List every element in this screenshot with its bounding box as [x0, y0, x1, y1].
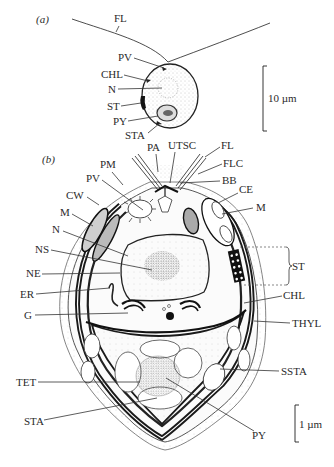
label-b-ne: NE — [26, 267, 41, 279]
label-b-fl: FL — [221, 139, 234, 151]
leader-b-fl — [205, 147, 220, 157]
label-b-sta: STA — [24, 415, 44, 427]
label-b-bb: BB — [222, 174, 237, 186]
scale-bar-1um: 1 µm — [295, 405, 323, 442]
label-a-pv: PV — [118, 51, 132, 63]
label-b-m-right: M — [256, 201, 266, 213]
scale-bar-10um: 10 µm — [263, 66, 297, 131]
starch-grain-top — [140, 340, 180, 358]
label-b-er: ER — [20, 288, 35, 300]
stroma-starch-5 — [238, 349, 250, 371]
pyrenoid — [136, 356, 180, 396]
label-a-st: ST — [107, 100, 120, 112]
label-b-m-left: M — [60, 206, 70, 218]
nucleolus — [144, 251, 180, 281]
leader-a-sta — [148, 123, 160, 133]
label-b-ce: CE — [239, 183, 253, 195]
label-b-ssta: SSTA — [281, 365, 307, 377]
cell-diagram-figure: (a) FL PV CHL N ST PY STA — [0, 0, 334, 467]
leader-a-pv — [134, 58, 164, 68]
label-a-fl: FL — [114, 12, 127, 24]
leader-b-flc — [198, 164, 222, 174]
panel-a: (a) FL PV CHL N ST PY STA — [36, 12, 297, 141]
label-b-ns: NS — [35, 243, 49, 255]
label-b-pm: PM — [100, 158, 116, 170]
leader-a-fl — [116, 26, 119, 32]
panel-a-tag: (a) — [36, 13, 49, 26]
flagellum-right-line — [168, 23, 270, 62]
stroma-starch-4 — [227, 326, 241, 350]
label-a-chl: CHL — [101, 68, 123, 80]
leader-b-cw — [87, 197, 99, 205]
label-b-utsc: UTSC — [168, 139, 196, 151]
label-b-thyl: THYL — [292, 317, 322, 329]
label-a-py: PY — [113, 115, 127, 127]
label-b-g: G — [24, 309, 32, 321]
stroma-starch-1 — [84, 334, 100, 358]
label-b-flc: FLC — [223, 157, 243, 169]
label-b-tet: TET — [16, 376, 36, 388]
panel-b: (b) — [16, 139, 323, 450]
stroma-starch-2 — [81, 361, 95, 383]
label-b-chl: CHL — [283, 289, 305, 301]
label-b-cw: CW — [66, 189, 84, 201]
leader-a-chl — [124, 75, 148, 81]
scale-bar-10um-label: 10 µm — [268, 92, 297, 104]
label-b-pa: PA — [147, 141, 160, 153]
label-a-n: N — [108, 83, 116, 95]
leader-b-pm — [112, 172, 123, 185]
panel-b-tag: (b) — [42, 153, 55, 166]
label-b-st: ST — [292, 260, 305, 272]
label-a-sta: STA — [125, 129, 145, 141]
label-b-n: N — [52, 223, 60, 235]
leader-b-m-left — [72, 214, 93, 226]
scale-bar-1um-label: 1 µm — [299, 418, 323, 430]
small-cell-pyrenoid-core — [163, 110, 173, 116]
label-b-pv: PV — [86, 172, 100, 184]
leader-a-st — [121, 103, 141, 106]
